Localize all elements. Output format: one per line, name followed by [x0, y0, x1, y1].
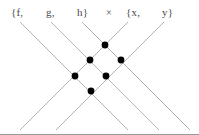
intersection-dot — [72, 73, 79, 80]
intersection-dot — [103, 73, 110, 80]
figure-bottom-rule — [0, 134, 199, 135]
lattice-line-h — [82, 22, 190, 130]
cartesian-product-lattice-figure: {f, g, h} × {x, y} — [0, 0, 199, 135]
intersection-dot — [118, 57, 125, 64]
intersection-dot — [102, 42, 109, 49]
intersection-dot — [88, 88, 95, 95]
intersection-dot — [87, 57, 94, 64]
lattice-diagram — [0, 0, 199, 135]
intersection-dots — [72, 42, 125, 95]
